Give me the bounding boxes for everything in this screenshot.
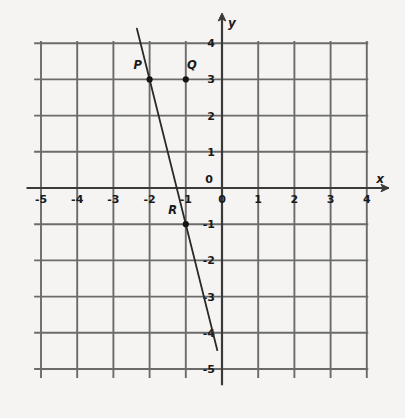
data-point-dot [183,221,189,227]
x-tick-label: 3 [327,193,335,206]
y-tick-label: -5 [203,363,215,376]
data-point-dot [183,76,189,82]
y-tick-label: -2 [203,254,215,267]
y-tick-label: 4 [207,37,215,50]
data-point-dot [147,76,153,82]
y-tick-label: -1 [203,218,215,231]
point-label-r: R [168,203,177,217]
x-tick-label: 4 [363,193,371,206]
x-tick-label: -5 [35,193,47,206]
x-tick-label: 1 [254,193,262,206]
coordinate-plane-graph: -5-4-3-2-10123443210-1-2-3-4-5 PQR xy [0,0,405,418]
point-label-p: P [133,58,142,72]
x-tick-label: -3 [107,193,119,206]
chart-background [0,0,405,418]
x-tick-label: 2 [291,193,299,206]
y-tick-label: 1 [207,146,215,159]
y-tick-label: 0 [205,173,213,186]
x-tick-label: -2 [143,193,155,206]
x-tick-label: 0 [218,193,226,206]
x-axis-label: x [375,172,385,186]
x-tick-label: -4 [71,193,84,206]
y-tick-label: 2 [207,110,215,123]
y-tick-label: 3 [207,73,215,86]
point-label-q: Q [187,58,197,72]
y-axis-label: y [228,16,237,30]
